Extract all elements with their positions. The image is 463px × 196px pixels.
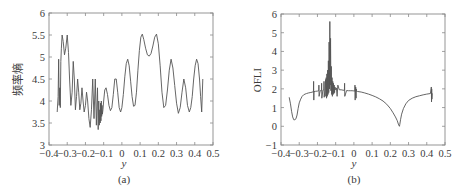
y-tick-label: 4 <box>40 96 46 107</box>
figure-root: −0.4−0.3−0.2−0.100.10.20.30.40.5 33.544.… <box>0 0 463 196</box>
y-tick-label: 1 <box>272 103 277 114</box>
x-tick-label: 0.2 <box>384 148 397 159</box>
x-tick-label: −0.3 <box>58 148 77 159</box>
y-tick-label: 6 <box>40 8 45 19</box>
y-axis-label-a: 频率熵 <box>11 63 25 96</box>
x-tick-label: 0.3 <box>402 148 415 159</box>
x-tick-label: 0.4 <box>420 148 434 159</box>
x-tick-label: 0.3 <box>170 148 183 159</box>
y-tick-label: 4.5 <box>32 74 45 85</box>
x-axis-label-b: y <box>351 157 357 169</box>
ticks-b <box>281 14 445 145</box>
y-tick-label: 5.5 <box>32 30 45 41</box>
x-tick-labels-a: −0.4−0.3−0.2−0.100.10.20.30.40.5 <box>39 148 219 159</box>
x-tick-label: −0.1 <box>94 148 113 159</box>
y-tick-label: 3 <box>40 140 45 151</box>
data-line-a <box>57 34 203 129</box>
plot-frame-b <box>281 14 445 145</box>
x-tick-label: −0.2 <box>76 148 95 159</box>
x-tick-label: −0.1 <box>326 148 345 159</box>
y-tick-label: 5 <box>272 28 277 39</box>
x-tick-label: 0.2 <box>152 148 165 159</box>
x-tick-labels-b: −0.4−0.3−0.2−0.100.10.20.30.40.5 <box>271 148 451 159</box>
y-tick-labels-a: 33.544.555.56 <box>32 8 46 151</box>
y-tick-label: 3.5 <box>32 118 45 129</box>
y-tick-label: −1 <box>266 140 277 151</box>
chart-panel-a: −0.4−0.3−0.2−0.100.10.20.30.40.5 33.544.… <box>11 8 220 186</box>
x-tick-label: −0.2 <box>308 148 327 159</box>
y-tick-label: 3 <box>272 65 277 76</box>
y-tick-labels-b: −10123456 <box>266 9 278 151</box>
x-axis-label-a: y <box>121 157 127 169</box>
y-tick-label: 0 <box>272 121 277 132</box>
caption-b: (b) <box>348 173 361 186</box>
x-tick-label: 0.5 <box>206 148 219 159</box>
x-tick-label: 0.1 <box>366 148 379 159</box>
y-axis-label-b: OFLI <box>251 67 263 92</box>
ticks-a <box>49 13 213 145</box>
x-tick-label: 0.4 <box>188 148 202 159</box>
data-line-b <box>289 21 432 126</box>
x-tick-label: −0.3 <box>290 148 309 159</box>
chart-panel-b: −0.4−0.3−0.2−0.100.10.20.30.40.5 −101234… <box>251 9 452 186</box>
y-tick-label: 4 <box>272 46 278 57</box>
x-tick-label: 0.5 <box>438 148 451 159</box>
x-tick-label: 0.1 <box>134 148 147 159</box>
y-tick-label: 5 <box>40 52 45 63</box>
y-tick-label: 6 <box>272 9 277 20</box>
caption-a: (a) <box>118 173 131 186</box>
plot-frame-a <box>49 13 213 145</box>
y-tick-label: 2 <box>272 84 277 95</box>
